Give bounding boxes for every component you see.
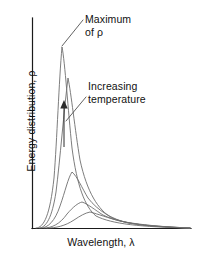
annotation-maximum: Maximumof ρ [85, 13, 131, 38]
maximum-leader-line [62, 20, 83, 46]
annotation-maximum-line2: of ρ [85, 26, 103, 38]
annotation-increasing-temperature: Increasingtemperature [88, 80, 146, 105]
curve-hottest [36, 47, 190, 228]
annotation-increasing-line1: Increasing [88, 80, 137, 92]
y-axis-label-wrapper: Energy distribution, ρ [21, 36, 39, 206]
x-axis-label: Wavelength, λ [0, 236, 202, 248]
annotation-increasing-line2: temperature [88, 93, 146, 105]
increasing-temperature-leader-line [66, 97, 86, 121]
y-axis-label: Energy distribution, ρ [25, 71, 37, 172]
annotation-maximum-line1: Maximum [85, 13, 131, 25]
increasing-temperature-arrow-head [60, 100, 67, 109]
blackbody-distribution-figure: Maximumof ρ Increasingtemperature Wavele… [0, 0, 202, 263]
